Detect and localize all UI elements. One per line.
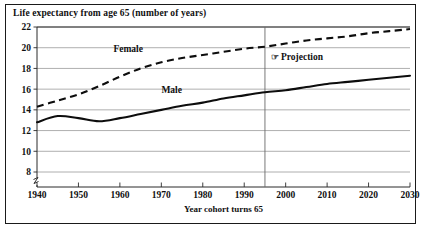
svg-text:Year cohort turns 65: Year cohort turns 65 bbox=[184, 204, 264, 214]
svg-text:16: 16 bbox=[22, 85, 32, 95]
series-labels: FemaleMale bbox=[113, 44, 182, 95]
svg-text:18: 18 bbox=[22, 64, 32, 74]
svg-text:1980: 1980 bbox=[193, 190, 212, 200]
svg-text:1960: 1960 bbox=[110, 190, 129, 200]
pointing-hand-icon: ☞ bbox=[271, 52, 279, 62]
chart-figure: Life expectancy from age 65 (number of y… bbox=[0, 0, 421, 230]
projection-label: Projection bbox=[281, 52, 323, 62]
svg-text:2020: 2020 bbox=[359, 190, 378, 200]
svg-text:14: 14 bbox=[22, 105, 32, 115]
svg-text:Female: Female bbox=[113, 44, 143, 54]
svg-text:2000: 2000 bbox=[276, 190, 295, 200]
x-axis-caption: Year cohort turns 65 bbox=[184, 204, 264, 214]
data-series bbox=[37, 29, 410, 122]
svg-text:1950: 1950 bbox=[69, 190, 88, 200]
svg-text:2030: 2030 bbox=[401, 190, 420, 200]
projection-annotation: ☞Projection bbox=[271, 52, 323, 62]
svg-text:1970: 1970 bbox=[152, 190, 171, 200]
axis-lines bbox=[34, 27, 411, 187]
svg-text:10: 10 bbox=[22, 147, 32, 157]
svg-text:22: 22 bbox=[22, 22, 32, 32]
line-chart-plot: 810121416182022 194019501960197019801990… bbox=[0, 0, 421, 230]
svg-text:8: 8 bbox=[26, 167, 31, 177]
svg-text:1940: 1940 bbox=[28, 190, 47, 200]
svg-text:Male: Male bbox=[161, 85, 182, 95]
svg-text:2010: 2010 bbox=[318, 190, 337, 200]
svg-text:20: 20 bbox=[22, 43, 32, 53]
x-axis-ticks: 1940195019601970198019902000201020202030 bbox=[28, 183, 420, 201]
svg-text:1990: 1990 bbox=[235, 190, 254, 200]
svg-text:12: 12 bbox=[22, 126, 32, 136]
y-axis-ticks: 810121416182022 bbox=[22, 22, 38, 177]
